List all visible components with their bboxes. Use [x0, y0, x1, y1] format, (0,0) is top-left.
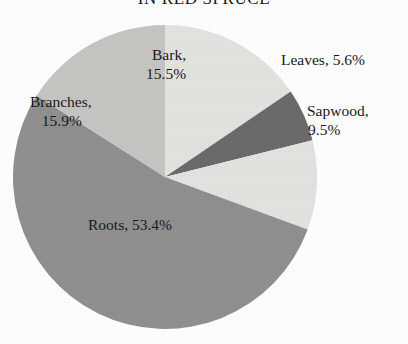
pie-label-roots-text: Roots, 53.4% [88, 216, 172, 233]
pie-label-sapwood: Sapwood, 9.5% [307, 101, 369, 139]
pie-label-branches-name: Branches, [30, 92, 92, 111]
pie-label-bark: Bark, 15.5% [152, 45, 186, 83]
page-title: IN RED SPRUCE [0, 0, 408, 9]
pie-label-branches-value: 15.9% [32, 111, 92, 130]
pie-label-sapwood-value: 9.5% [308, 120, 369, 139]
pie-label-bark-value: 15.5% [146, 64, 186, 83]
pie-label-sapwood-name: Sapwood, [307, 102, 369, 119]
pie-label-roots: Roots, 53.4% [88, 215, 172, 234]
pie-label-branches: Branches, 15.9% [30, 92, 92, 130]
pie-label-leaves-text: Leaves, 5.6% [281, 51, 365, 68]
pie-label-leaves: Leaves, 5.6% [281, 50, 365, 69]
pie-label-bark-name: Bark, [152, 45, 186, 64]
